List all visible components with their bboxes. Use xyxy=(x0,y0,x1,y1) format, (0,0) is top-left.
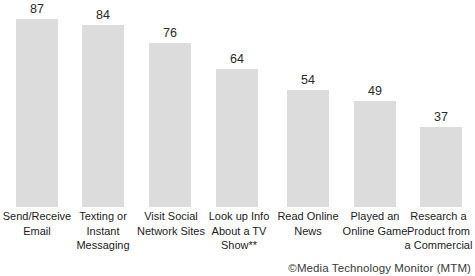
bar-value-label: 64 xyxy=(216,53,258,66)
copyright-notice: ©Media Technology Monitor (MTM) xyxy=(288,262,471,274)
bar-group: 54 xyxy=(287,0,329,207)
bar-rect[interactable] xyxy=(287,90,329,207)
bar-rect[interactable] xyxy=(354,101,396,207)
bar-value-label: 49 xyxy=(354,85,396,98)
category-label-read-online-news: Read Online News xyxy=(274,209,342,238)
bar-value-label: 37 xyxy=(420,111,462,124)
bar-group: 87 xyxy=(16,0,58,207)
category-label-look-up-info-about-a-tv-show: Look up Info About a TV Show** xyxy=(203,209,275,253)
category-label-visit-social-network-sites: Visit Social Network Sites xyxy=(132,209,210,238)
category-label-send-receive-email: Send/Receive Email xyxy=(0,209,74,238)
bar-rect[interactable] xyxy=(16,19,58,207)
bar-group: 37 xyxy=(420,0,462,207)
bar-value-label: 84 xyxy=(82,9,124,22)
bar-value-label: 54 xyxy=(287,74,329,87)
bar-rect[interactable] xyxy=(82,25,124,207)
bar-value-label: 76 xyxy=(149,27,191,40)
category-label-research-a-product-from-a-commercial: Research a Product from a Commercial xyxy=(402,209,475,253)
bar-chart: 87 84 76 64 54 49 37 Send/Receiv xyxy=(0,0,475,276)
bar-rect[interactable] xyxy=(216,69,258,207)
category-axis: Send/Receive Email Texting or Instant Me… xyxy=(0,209,475,257)
bar-group: 76 xyxy=(149,0,191,207)
bar-value-label: 87 xyxy=(16,3,58,16)
bar-group: 49 xyxy=(354,0,396,207)
bar-rect[interactable] xyxy=(420,127,462,207)
category-label-texting-or-instant-messaging: Texting or Instant Messaging xyxy=(68,209,138,253)
bar-rect[interactable] xyxy=(149,43,191,207)
category-label-played-an-online-game: Played an Online Game xyxy=(339,209,411,238)
plot-area: 87 84 76 64 54 49 37 xyxy=(0,0,475,207)
bar-group: 64 xyxy=(216,0,258,207)
bar-group: 84 xyxy=(82,0,124,207)
